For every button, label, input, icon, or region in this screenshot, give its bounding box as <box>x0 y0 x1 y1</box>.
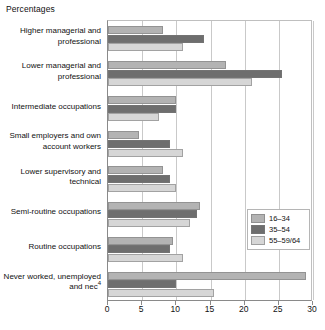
bar <box>108 140 170 148</box>
legend-item: 55–59/64 <box>251 235 307 246</box>
bar <box>108 113 159 121</box>
bar <box>108 131 139 139</box>
bar-chart: Percentages Higher managerial andprofess… <box>0 0 325 330</box>
legend: 16–3435–5455–59/64 <box>247 209 310 250</box>
legend-swatch <box>251 236 265 245</box>
bar <box>108 202 200 210</box>
plot-area <box>107 20 312 301</box>
bar <box>108 175 170 183</box>
category-label: Semi-routine occupations <box>0 207 101 218</box>
bar-group <box>108 96 311 121</box>
bar <box>108 245 170 253</box>
bar <box>108 254 183 262</box>
bar <box>108 280 176 288</box>
x-axis-tick-label: 20 <box>239 304 248 314</box>
bar <box>108 237 173 245</box>
chart-title: Percentages <box>6 4 55 14</box>
bar <box>108 289 214 297</box>
bar <box>108 35 204 43</box>
bar <box>108 43 183 51</box>
category-label: Lower supervisory andtechnical <box>0 167 101 188</box>
bar-group <box>108 26 311 51</box>
bar <box>108 219 190 227</box>
bar <box>108 70 282 78</box>
x-axis-tick-label: 0 <box>105 304 110 314</box>
category-label: Routine occupations <box>0 242 101 253</box>
bar <box>108 105 176 113</box>
legend-label: 35–54 <box>269 225 290 234</box>
bar <box>108 210 197 218</box>
legend-label: 55–59/64 <box>269 236 300 245</box>
x-axis-tick-label: 25 <box>273 304 282 314</box>
category-label: Higher managerial andprofessional <box>0 26 101 47</box>
bar-groups <box>108 21 311 300</box>
bar <box>108 184 176 192</box>
legend-item: 35–54 <box>251 224 307 235</box>
bar-group <box>108 272 311 297</box>
bar <box>108 26 163 34</box>
category-label: Intermediate occupations <box>0 102 101 113</box>
bar <box>108 272 306 280</box>
x-axis-tick-label: 10 <box>171 304 180 314</box>
bar-group <box>108 131 311 156</box>
legend-item: 16–34 <box>251 213 307 224</box>
category-label: Small employers and ownaccount workers <box>0 131 101 152</box>
bar-group <box>108 61 311 86</box>
category-label: Lower managerial andprofessional <box>0 61 101 82</box>
bar <box>108 61 226 69</box>
bar-group <box>108 166 311 191</box>
x-axis-tick-label: 5 <box>139 304 144 314</box>
legend-swatch <box>251 225 265 234</box>
x-axis-tick-label: 15 <box>205 304 214 314</box>
category-label: Never worked, unemployedand nec4 <box>0 272 101 293</box>
legend-swatch <box>251 214 265 223</box>
bar <box>108 149 183 157</box>
bar <box>108 96 176 104</box>
gridline <box>313 21 314 300</box>
x-axis-tick-label: 30 <box>307 304 316 314</box>
bar <box>108 78 252 86</box>
bar <box>108 166 163 174</box>
legend-label: 16–34 <box>269 214 290 223</box>
